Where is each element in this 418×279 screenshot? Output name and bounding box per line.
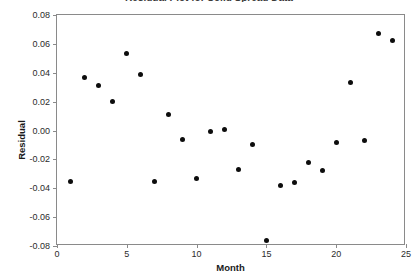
- y-axis-tick-label: -0.02: [29, 155, 50, 164]
- x-axis-tick-label: 25: [401, 250, 411, 259]
- data-point: [222, 127, 227, 132]
- data-point: [82, 75, 87, 80]
- y-axis-tick-label: -0.04: [29, 184, 50, 193]
- data-point: [250, 142, 255, 147]
- data-point: [362, 138, 367, 143]
- y-axis-tick-label: 0.00: [32, 126, 50, 135]
- x-axis-tick-mark: [406, 244, 407, 248]
- x-axis-tick-label: 20: [331, 250, 341, 259]
- y-axis-tick-label: 0.06: [32, 39, 50, 48]
- data-point: [292, 180, 297, 185]
- y-axis-tick-label: -0.08: [29, 242, 50, 251]
- chart-title: Residual Plot for Solid Spread Data: [0, 0, 418, 2]
- data-point: [96, 83, 101, 88]
- data-point: [68, 179, 73, 184]
- data-point: [348, 80, 353, 85]
- x-axis-title: Month: [56, 262, 405, 273]
- data-point: [152, 179, 157, 184]
- y-axis-tick-label: 0.08: [32, 11, 50, 20]
- data-point: [264, 238, 269, 243]
- data-point: [236, 167, 241, 172]
- data-point: [278, 183, 283, 188]
- data-point: [138, 72, 143, 77]
- data-points-layer: [57, 15, 406, 246]
- data-point: [166, 112, 171, 117]
- y-axis-tick-label: 0.04: [32, 68, 50, 77]
- y-axis-tick-label: 0.02: [32, 97, 50, 106]
- data-point: [320, 168, 325, 173]
- x-axis-tick-label: 10: [192, 250, 202, 259]
- x-axis-tick-label: 15: [261, 250, 271, 259]
- data-point: [334, 140, 339, 145]
- data-point: [180, 137, 185, 142]
- data-point: [306, 160, 311, 165]
- data-point: [110, 99, 115, 104]
- residual-scatter-chart: Residual Plot for Solid Spread Data Resi…: [0, 0, 418, 279]
- y-axis-title: Residual: [16, 120, 27, 160]
- y-axis-tick-label: -0.06: [29, 213, 50, 222]
- plot-area: 0.080.060.040.020.00-0.02-0.04-0.06-0.08…: [56, 14, 405, 245]
- data-point: [194, 176, 199, 181]
- x-axis-tick-label: 0: [54, 250, 59, 259]
- data-point: [390, 38, 395, 43]
- data-point: [208, 129, 213, 134]
- data-point: [124, 51, 129, 56]
- data-point: [376, 31, 381, 36]
- x-axis-tick-label: 5: [124, 250, 129, 259]
